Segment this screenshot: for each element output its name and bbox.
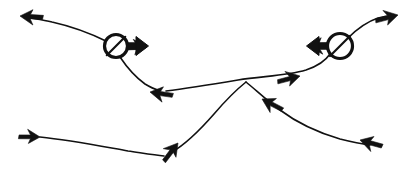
figure-background	[0, 0, 416, 177]
figure-root: Hand-drawn arrow trajectory sketch	[0, 0, 416, 177]
sketch-canvas: Hand-drawn arrow trajectory sketch	[0, 0, 416, 177]
